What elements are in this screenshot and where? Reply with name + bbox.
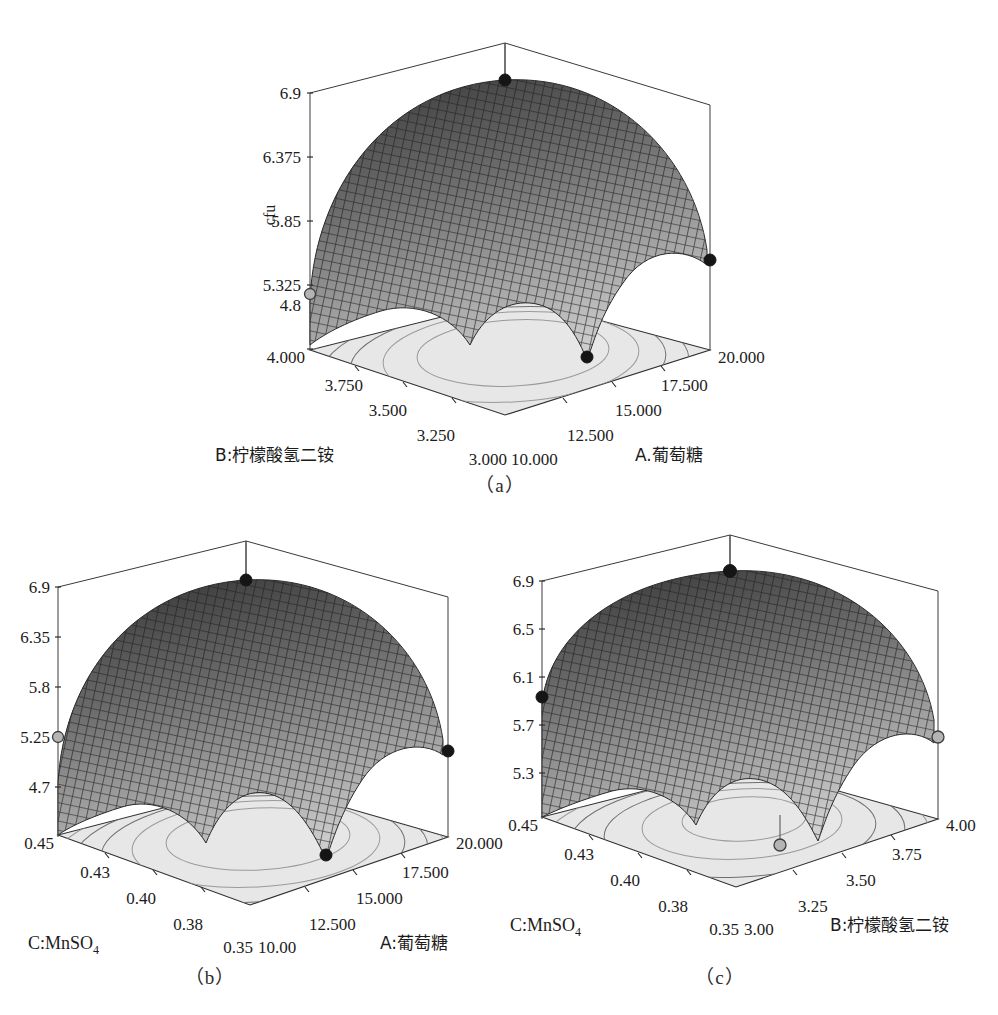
right-tick-a-4: 10.000: [511, 450, 558, 469]
left-tick-c-1: 0.43: [564, 845, 594, 864]
marker-right-a: [704, 254, 716, 266]
right-tick-b-1: 17.500: [402, 863, 449, 882]
right-axis-title-c: B:柠檬酸氢二铵: [830, 915, 949, 935]
right-axis-title-b: A:葡萄糖: [380, 933, 448, 953]
response-surface-figure: 6.9 6.375 5.85 5.325 4.8 cfu 4.000 3.750…: [0, 0, 998, 1015]
caption-a: （a）: [400, 470, 600, 497]
z-tick-a-0: 6.9: [280, 84, 301, 103]
right-tick-a-2: 15.000: [615, 401, 662, 420]
left-tick-c-4: 0.35: [709, 920, 739, 939]
panel-b: 6.9 6.35 5.8 5.25 4.7 0.45 0.43 0.40 0.3…: [10, 525, 480, 955]
left-axis-title-c: C:MnSO4: [510, 915, 581, 939]
z-tick-b-1: 6.35: [20, 628, 50, 647]
marker-left-c: [536, 691, 548, 703]
left-tick-b-2: 0.40: [126, 889, 156, 908]
right-tick-a-3: 12.500: [567, 426, 614, 445]
left-tick-a-2: 3.500: [369, 401, 407, 420]
z-tick-a-3: 5.325: [263, 276, 301, 295]
marker-peak-c: [724, 565, 737, 578]
z-tick-c-1: 6.5: [513, 620, 534, 639]
z-tick-b-0: 6.9: [29, 578, 50, 597]
left-tick-b-0: 0.45: [24, 834, 54, 853]
panel-c: 6.9 6.5 6.1 5.7 5.3 0.45 0.43 0.40 0.38 …: [490, 525, 990, 955]
marker-base-c: [774, 839, 786, 851]
marker-left-b: [53, 732, 64, 743]
caption-c: （c）: [620, 962, 820, 989]
right-tick-c-3: 3.25: [798, 897, 828, 916]
z-tick-b-3: 5.25: [20, 728, 50, 747]
right-tick-c-0: 4.00: [946, 816, 976, 835]
right-tick-c-2: 3.50: [846, 871, 876, 890]
left-tick-b-1: 0.43: [80, 863, 110, 882]
left-tick-a-0: 4.000: [267, 348, 305, 367]
right-axis-title-a: A.葡萄糖: [635, 445, 703, 465]
marker-right-c: [932, 731, 944, 743]
z-tick-c-0: 6.9: [513, 572, 534, 591]
marker-right-b: [442, 745, 454, 757]
z-tick-c-2: 6.1: [513, 668, 534, 687]
z-tick-c-4: 5.3: [513, 764, 534, 783]
z-tick-a-4: 4.8: [280, 296, 301, 315]
panel-a: 6.9 6.375 5.85 5.325 4.8 cfu 4.000 3.750…: [255, 15, 775, 475]
right-tick-b-3: 12.500: [309, 915, 356, 934]
left-tick-a-1: 3.750: [325, 376, 363, 395]
right-tick-a-1: 17.500: [661, 376, 708, 395]
left-tick-b-3: 0.38: [173, 915, 203, 934]
z-axis-label-a: cfu: [261, 205, 278, 225]
marker-base-b: [320, 849, 332, 861]
z-tick-b-4: 4.7: [29, 778, 51, 797]
left-axis-title-a: B:柠檬酸氢二铵: [215, 445, 334, 465]
left-tick-a-3: 3.250: [417, 426, 455, 445]
right-tick-c-4: 3.00: [744, 920, 774, 939]
marker-base-a: [581, 351, 593, 363]
right-tick-a-0: 20.000: [718, 348, 765, 367]
right-tick-b-4: 10.00: [258, 938, 296, 957]
right-tick-c-1: 3.75: [892, 845, 922, 864]
z-tick-b-2: 5.8: [29, 678, 50, 697]
caption-b: （b）: [110, 962, 310, 989]
left-tick-b-4: 0.35: [223, 938, 253, 957]
left-tick-c-2: 0.40: [610, 871, 640, 890]
marker-peak-a: [499, 74, 511, 86]
left-axis-title-b: C:MnSO4: [28, 933, 99, 957]
z-tick-c-3: 5.7: [513, 716, 535, 735]
right-tick-b-2: 15.000: [356, 889, 403, 908]
z-axis-b: 6.9 6.35 5.8 5.25 4.7: [20, 578, 61, 797]
z-tick-a-1: 6.375: [263, 148, 301, 167]
left-tick-a-4: 3.000: [469, 450, 507, 469]
z-axis-a: 6.9 6.375 5.85 5.325 4.8 cfu: [261, 84, 313, 349]
left-tick-c-3: 0.38: [658, 897, 688, 916]
z-axis-c: 6.9 6.5 6.1 5.7 5.3: [513, 572, 545, 783]
marker-left-a: [305, 289, 316, 300]
left-tick-c-0: 0.45: [508, 816, 538, 835]
marker-peak-b: [240, 574, 252, 586]
